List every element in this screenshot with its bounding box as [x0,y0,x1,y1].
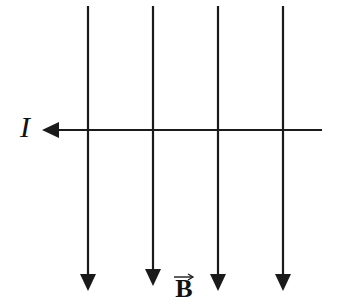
field-line-1 [80,6,96,291]
diagram-canvas: I B [0,0,342,308]
down-arrow-icon [80,274,96,291]
down-arrow-icon [275,274,291,291]
current-wire [42,122,322,138]
magnetic-field-lines [80,6,291,291]
current-label: I [20,112,30,142]
field-diagram [0,0,342,308]
field-line-3 [210,6,226,291]
magnetic-field-label: B [172,276,196,302]
left-arrow-icon [42,122,59,138]
field-line-4 [275,6,291,291]
field-line-2 [145,6,161,286]
down-arrow-icon [145,269,161,286]
down-arrow-icon [210,274,226,291]
